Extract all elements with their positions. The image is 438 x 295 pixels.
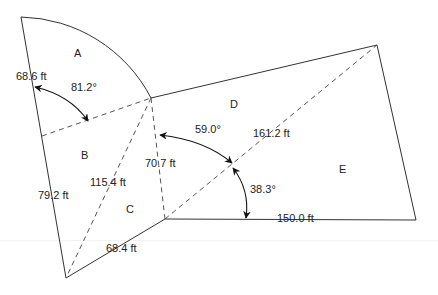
region-label-e: E — [339, 163, 346, 175]
angle-label-a: 81.2° — [71, 81, 97, 93]
length-label-diag-b-c: 115.4 ft — [90, 176, 126, 188]
angle-label-cd: 59.0° — [195, 123, 221, 135]
length-labels: 68.6 ft 79.2 ft 115.4 ft 70.7 ft 68.4 ft… — [16, 70, 314, 254]
dashed-lines — [42, 45, 377, 278]
region-label-b: B — [81, 149, 88, 161]
angle-arc-e — [233, 168, 247, 218]
sector-radius — [42, 98, 151, 136]
length-label-diag-d-e: 161.2 ft — [253, 127, 290, 139]
region-label-a: A — [74, 47, 82, 59]
length-label-center-down: 70.7 ft — [145, 157, 176, 169]
plot-diagram: A B C D E 68.6 ft 79.2 ft 115.4 ft 70.7 … — [0, 0, 438, 295]
length-label-bottom-right: 150.0 ft — [277, 212, 314, 224]
left-edge — [21, 17, 66, 278]
right-edge-e — [377, 45, 416, 220]
length-label-left-bottom: 79.2 ft — [38, 189, 69, 201]
top-edge-d — [151, 45, 377, 98]
region-label-d: D — [230, 98, 238, 110]
length-label-left-top: 68.6 ft — [16, 70, 47, 82]
length-label-bottom-left: 68.4 ft — [106, 242, 137, 254]
region-label-c: C — [126, 203, 134, 215]
angle-label-e: 38.3° — [250, 183, 276, 195]
